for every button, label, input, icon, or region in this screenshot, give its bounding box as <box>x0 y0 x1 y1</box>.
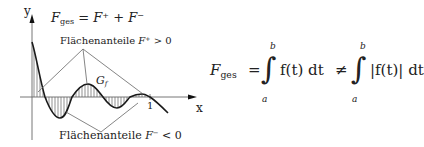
x-tick-label: 1 <box>147 100 153 111</box>
top-formula-lhs: F <box>51 10 60 25</box>
integral2-upper-limit: b <box>360 41 366 51</box>
top-formula-term1: F <box>93 10 102 25</box>
x-axis-label: x <box>196 101 203 115</box>
main-formula-lhs-group: Fges <box>210 61 237 80</box>
integral2-sign-icon: ∫ <box>351 54 367 84</box>
label-negative-var: F <box>145 129 153 142</box>
integral1-sign-icon: ∫ <box>261 54 277 84</box>
not-equals-sign: ≠ <box>335 61 348 79</box>
x-axis-arrow-icon <box>188 95 197 100</box>
top-formula-term1-sup: + <box>102 11 109 20</box>
main-formula-equals: = <box>248 61 261 79</box>
positive-area-hatch <box>30 40 155 100</box>
label-negative-areas: Flächenanteile F− < 0 <box>59 129 182 142</box>
integral2-integrand: |f(t)| dt <box>370 61 424 79</box>
integral1-integrand: f(t) dt <box>280 61 324 79</box>
pointer-lines-negative <box>66 103 138 132</box>
graph-label-sub: f <box>105 80 108 88</box>
graph-label: Gf <box>96 74 107 88</box>
label-positive-areas: Flächenanteile F+ > 0 <box>60 35 172 46</box>
integral1-upper-limit: b <box>270 41 276 51</box>
label-positive-rel: > 0 <box>150 35 171 46</box>
graph-label-main: G <box>96 74 105 87</box>
label-negative-rel: < 0 <box>159 129 182 142</box>
main-formula-lhs-sub: ges <box>220 69 236 80</box>
y-axis-label: y <box>24 4 31 18</box>
top-formula-lhs-sub: ges <box>60 17 74 26</box>
integral1-lower-limit: a <box>262 94 267 104</box>
main-formula-lhs: F <box>210 61 220 79</box>
integral2-lower-limit: a <box>352 94 357 104</box>
top-formula-term2: F <box>128 10 137 25</box>
top-formula-plus: + <box>113 10 124 25</box>
top-formula: Fges = F+ + F− <box>51 10 144 26</box>
label-positive-text: Flächenanteile <box>60 35 138 46</box>
top-formula-term2-sup: − <box>137 11 144 20</box>
top-formula-equals: = <box>78 10 89 25</box>
label-negative-text: Flächenanteile <box>59 129 145 142</box>
